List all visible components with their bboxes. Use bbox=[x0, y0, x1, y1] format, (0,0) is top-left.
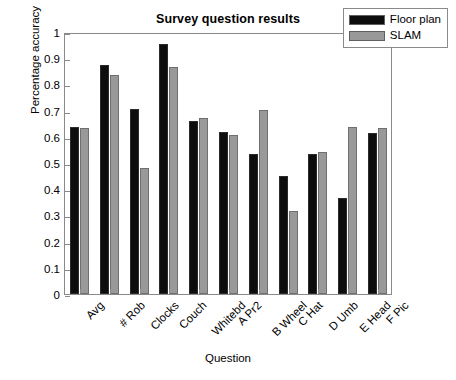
y-tick-label: 0.1 bbox=[44, 264, 60, 276]
x-tick-mark bbox=[140, 289, 141, 294]
y-tick-label: 0.5 bbox=[44, 159, 60, 171]
x-tick-mark bbox=[169, 289, 170, 294]
y-axis-label: Percentage accuracy bbox=[29, 6, 41, 114]
bar-slam bbox=[289, 211, 298, 294]
bar-floor-plan bbox=[159, 44, 168, 294]
y-tick-label: 0.7 bbox=[44, 107, 60, 119]
bar-slam bbox=[378, 128, 387, 294]
y-tick-label: 0.6 bbox=[44, 133, 60, 145]
bar-floor-plan bbox=[70, 127, 79, 294]
x-tick-label: Avg bbox=[84, 299, 106, 321]
y-tick-label: 0.9 bbox=[44, 54, 60, 66]
bar-floor-plan bbox=[338, 198, 347, 294]
bar-floor-plan bbox=[368, 133, 377, 294]
bar-group bbox=[279, 34, 299, 294]
bar-group bbox=[189, 34, 209, 294]
x-tick-label: # Rob bbox=[117, 299, 147, 329]
bar-floor-plan bbox=[189, 121, 198, 294]
chart-legend: Floor planSLAM bbox=[343, 8, 448, 48]
bar-slam bbox=[169, 67, 178, 294]
x-axis-label: Question bbox=[64, 352, 392, 364]
bar-slam bbox=[229, 135, 238, 294]
x-tick-mark bbox=[318, 289, 319, 294]
y-tick-label: 0 bbox=[54, 290, 60, 302]
bar-group bbox=[249, 34, 269, 294]
legend-swatch-floor-plan bbox=[349, 15, 385, 25]
legend-swatch-slam bbox=[349, 31, 385, 41]
x-tick-mark bbox=[289, 289, 290, 294]
x-tick-mark bbox=[229, 289, 230, 294]
bar-group bbox=[308, 34, 328, 294]
bar-floor-plan bbox=[130, 109, 139, 294]
bar-floor-plan bbox=[219, 132, 228, 294]
bar-slam bbox=[199, 118, 208, 294]
x-tick-label: Couch bbox=[177, 299, 209, 331]
bar-group bbox=[70, 34, 90, 294]
y-tick-mark bbox=[65, 296, 70, 297]
bar-slam bbox=[259, 110, 268, 294]
bar-slam bbox=[348, 127, 357, 294]
bar-group bbox=[130, 34, 150, 294]
y-tick-label: 0.2 bbox=[44, 238, 60, 250]
x-tick-mark bbox=[199, 289, 200, 294]
x-tick-mark bbox=[80, 289, 81, 294]
x-tick-mark bbox=[110, 289, 111, 294]
bar-slam bbox=[140, 168, 149, 294]
x-tick-mark bbox=[378, 289, 379, 294]
bar-group bbox=[219, 34, 239, 294]
y-tick-label: 0.8 bbox=[44, 81, 60, 93]
bar-group bbox=[100, 34, 120, 294]
plot-area: Percentage accuracy 00.10.20.30.40.50.60… bbox=[64, 33, 392, 295]
bar-slam bbox=[80, 128, 89, 294]
bar-group bbox=[338, 34, 358, 294]
x-tick-label: D Umb bbox=[327, 299, 361, 333]
x-tick-mark bbox=[348, 289, 349, 294]
x-tick-mark bbox=[259, 289, 260, 294]
legend-item[interactable]: Floor plan bbox=[349, 13, 441, 27]
bar-slam bbox=[318, 152, 327, 294]
bar-floor-plan bbox=[279, 176, 288, 294]
bar-group bbox=[159, 34, 179, 294]
legend-label: Floor plan bbox=[390, 14, 441, 26]
y-tick-label: 0.3 bbox=[44, 212, 60, 224]
chart-figure: Survey question results Percentage accur… bbox=[0, 0, 456, 380]
bar-floor-plan bbox=[100, 65, 109, 294]
bar-group bbox=[368, 34, 388, 294]
bar-slam bbox=[110, 75, 119, 294]
legend-item[interactable]: SLAM bbox=[349, 29, 441, 43]
x-tick-label: Clocks bbox=[148, 299, 181, 332]
bar-floor-plan bbox=[308, 154, 317, 294]
bar-floor-plan bbox=[249, 154, 258, 294]
y-tick-label: 1 bbox=[54, 28, 60, 40]
legend-label: SLAM bbox=[390, 30, 421, 42]
y-tick-label: 0.4 bbox=[44, 185, 60, 197]
